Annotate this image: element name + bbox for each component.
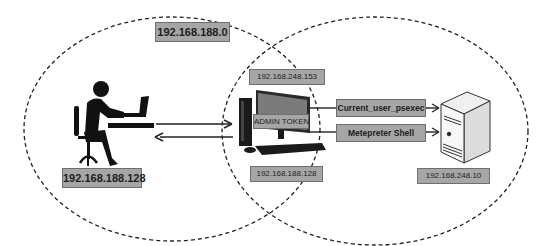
attacker-pivot-arrows	[155, 120, 233, 141]
admin-token-label: ADMIN TOKEN	[253, 114, 309, 129]
target-ip-label: 192.168.248.10	[417, 168, 490, 184]
server-tower-icon	[441, 92, 490, 163]
network-pivot-diagram: 192.168.188.0 192.168.248.153 ADMIN TOKE…	[0, 0, 548, 246]
pivot-ip-top-label: 192.168.248.153	[249, 69, 325, 85]
current-user-psexec-edge-label: Current_user_psexec	[336, 99, 426, 117]
person-at-laptop-icon	[74, 81, 154, 166]
attacker-ip-label: 192.168.188.128	[62, 168, 142, 188]
left-network-label: 192.168.188.0	[155, 22, 230, 42]
pivot-ip-bottom-label: 192.168.188.128	[250, 166, 323, 182]
meterpreter-shell-edge-label: Metepreter Shell	[336, 124, 426, 142]
